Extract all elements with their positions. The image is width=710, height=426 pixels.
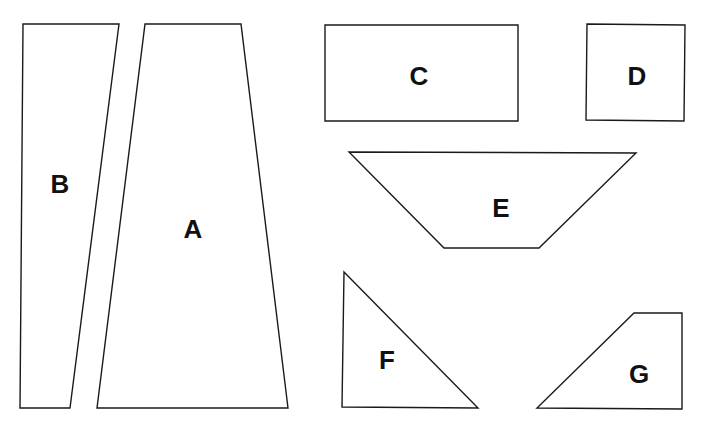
- shape-g-outline: [537, 313, 682, 409]
- shape-e-label: E: [492, 193, 509, 223]
- shape-d-label: D: [628, 61, 647, 91]
- shape-f-label: F: [379, 345, 395, 375]
- shape-f-outline: [342, 272, 478, 408]
- shape-f: F: [342, 272, 478, 408]
- shape-c-label: C: [410, 61, 429, 91]
- shape-a-label: A: [184, 214, 203, 244]
- shape-b-label: B: [51, 169, 70, 199]
- shape-a: A: [97, 24, 288, 408]
- shape-g-label: G: [629, 359, 649, 389]
- shape-d: D: [586, 24, 685, 121]
- shape-g: G: [537, 313, 682, 409]
- shapes-diagram: A B C D E F G: [0, 0, 710, 426]
- shape-e: E: [349, 152, 636, 248]
- shape-c: C: [325, 25, 518, 121]
